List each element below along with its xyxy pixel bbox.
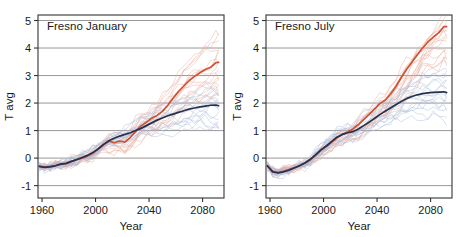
panel-fresno-july: -10123451960200020402080YearT avgFresno …: [228, 0, 457, 237]
x-tick-label: 2000: [83, 204, 107, 216]
y-tick-label: 1: [25, 125, 31, 137]
y-tick-label: 0: [25, 152, 31, 164]
x-tick-label: 1960: [30, 204, 54, 216]
y-tick-label: 5: [253, 15, 259, 27]
x-tick-label: 2080: [190, 204, 214, 216]
y-tick-label: 3: [253, 70, 259, 82]
panel-title: Fresno July: [275, 20, 335, 32]
x-axis-title: Year: [119, 220, 142, 232]
x-tick-label: 2040: [365, 204, 389, 216]
panel-title: Fresno January: [47, 20, 127, 32]
y-axis-title: T avg: [231, 92, 243, 121]
y-tick-label: 0: [253, 152, 259, 164]
ensemble-members: [267, 7, 446, 179]
x-axis-title: Year: [347, 220, 370, 232]
y-tick-label: 1: [253, 125, 259, 137]
y-tick-label: 3: [25, 70, 31, 82]
y-tick-label: -1: [21, 180, 31, 192]
x-tick-label: 1960: [258, 204, 282, 216]
ensemble-members: [39, 30, 218, 173]
y-tick-label: 2: [253, 97, 259, 109]
y-tick-label: 5: [25, 15, 31, 27]
y-axis-title: T avg: [3, 92, 15, 121]
y-tick-label: 4: [25, 42, 31, 54]
x-tick-label: 2080: [418, 204, 442, 216]
y-tick-label: 4: [253, 42, 259, 54]
x-tick-label: 2000: [311, 204, 335, 216]
x-tick-label: 2040: [137, 204, 161, 216]
panel-fresno-january: -10123451960200020402080YearT avgFresno …: [0, 0, 229, 237]
y-tick-label: -1: [249, 180, 259, 192]
y-tick-label: 2: [25, 97, 31, 109]
climate-projection-figure: -10123451960200020402080YearT avgFresno …: [0, 0, 457, 237]
